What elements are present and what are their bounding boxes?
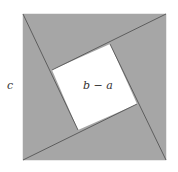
side-length-label: c <box>7 80 13 91</box>
inner-square-label: b − a <box>83 80 113 91</box>
